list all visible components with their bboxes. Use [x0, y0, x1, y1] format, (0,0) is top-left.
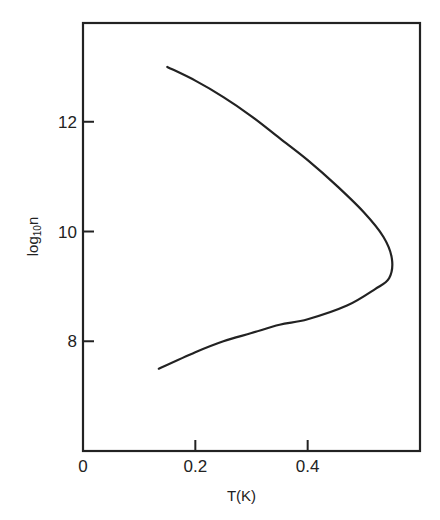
plot-frame [83, 23, 420, 451]
chart: 00.20.4 81012 T(K) log10n [0, 0, 440, 520]
y-tick-label: 10 [58, 223, 77, 242]
y-tick-label: 12 [58, 113, 77, 132]
x-tick-label: 0 [78, 457, 87, 476]
y-axis-label: log10n [24, 217, 43, 257]
x-axis-label: T(K) [227, 487, 256, 504]
data-curve [159, 67, 392, 369]
y-axis-ticks: 81012 [58, 113, 94, 351]
x-tick-label: 0.2 [184, 457, 208, 476]
x-axis-ticks: 00.20.4 [78, 440, 319, 476]
x-tick-label: 0.4 [296, 457, 320, 476]
y-axis-label-subscript: 10 [32, 225, 43, 237]
y-axis-label-base: log [24, 236, 41, 256]
y-axis-label-var: n [24, 217, 41, 225]
y-tick-label: 8 [68, 332, 77, 351]
